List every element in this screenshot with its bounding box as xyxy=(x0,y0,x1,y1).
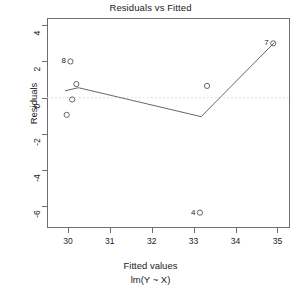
point-label: 4 xyxy=(191,208,195,217)
y-axis-tick xyxy=(42,61,47,62)
x-axis-tick xyxy=(277,228,278,233)
y-axis-tick xyxy=(42,134,47,135)
plot-area: 847 xyxy=(47,18,290,228)
y-axis-tick-label: -6 xyxy=(32,206,42,222)
y-axis-tick xyxy=(42,98,47,99)
data-points-group xyxy=(64,41,276,215)
x-axis-tick-label: 30 xyxy=(56,236,80,246)
x-axis-tick xyxy=(110,228,111,233)
x-axis-tick xyxy=(68,228,69,233)
data-point xyxy=(197,210,202,215)
plot-graphics xyxy=(47,18,290,228)
x-axis-tick-label: 34 xyxy=(224,236,248,246)
point-label: 8 xyxy=(61,56,65,65)
data-point xyxy=(204,83,209,88)
data-point xyxy=(74,81,79,86)
y-axis-tick-label: 4 xyxy=(32,25,42,41)
x-axis-tick xyxy=(236,228,237,233)
y-axis-tick xyxy=(42,206,47,207)
residuals-vs-fitted-plot: Residuals vs Fitted 847 420-2-4-6 303132… xyxy=(0,0,301,294)
x-axis-tick-label: 35 xyxy=(265,236,289,246)
page-title: Residuals vs Fitted xyxy=(0,2,301,13)
x-axis-tick xyxy=(194,228,195,233)
x-axis-tick-label: 32 xyxy=(140,236,164,246)
x-axis-tick xyxy=(152,228,153,233)
x-axis-tick-label: 31 xyxy=(98,236,122,246)
y-axis-tick xyxy=(42,170,47,171)
x-axis-title: Fitted values xyxy=(0,260,301,271)
loess-smoother-line xyxy=(65,42,274,116)
y-axis-tick xyxy=(42,25,47,26)
y-axis-title: Residuals xyxy=(28,69,39,139)
x-axis-subtitle: lm(Y ~ X) xyxy=(0,274,301,285)
x-axis-tick-label: 33 xyxy=(182,236,206,246)
data-point xyxy=(64,112,69,117)
data-point xyxy=(68,59,73,64)
y-axis-tick-label: -4 xyxy=(32,170,42,186)
point-label: 7 xyxy=(264,38,268,47)
